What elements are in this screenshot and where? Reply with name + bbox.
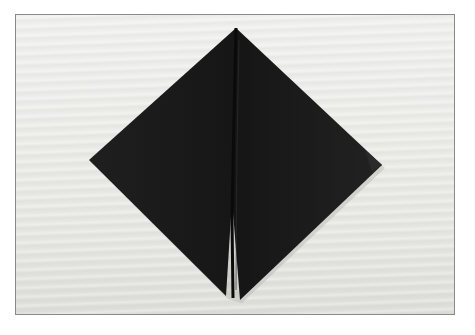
folded-napkin — [0, 0, 475, 335]
napkin-right-panel — [232, 28, 382, 300]
napkin-left-panel — [89, 28, 236, 296]
